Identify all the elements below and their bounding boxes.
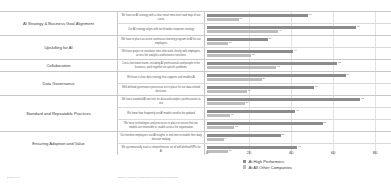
statement-text: Our frontline employees use AI insights … [118,132,205,143]
bar-other-companies [207,54,251,57]
bar-value-label: 29 [269,38,272,41]
bar-cell: 6233 [205,60,391,71]
bar-cell: 4211 [205,108,391,119]
axis-tick-label: 40 [289,150,294,155]
bar-high-performers [207,26,356,29]
statement-text: We have a clear data strategy that suppo… [118,72,205,83]
statement-row: Our AI strategy aligns with our broader … [118,23,391,35]
legend-item[interactable]: At All Other Companies [243,165,292,170]
bar-value-label: 66 [346,74,349,77]
statement-text: We have project or translator roles who … [118,48,205,59]
bar-value-label: 11 [231,114,234,117]
bar-other-companies [207,18,239,21]
bar-wrap-other: 8 [207,138,391,141]
bar-wrap-high: 42 [207,110,391,113]
bar-wrap-other: 26 [207,78,391,81]
statement-row: We have a clear data strategy that suppo… [118,72,391,83]
statement-text: We have in place an active continuous le… [118,36,205,47]
bar-wrap-high: 51 [207,86,391,89]
statement-row: We have an AI strategy with a clear smar… [118,12,391,23]
category-group: Upskilling for AIWe have in place an act… [0,35,391,59]
bar-value-label: 13 [235,126,238,129]
legend-swatch-icon [243,165,246,168]
bar-high-performers [207,50,293,53]
bar-high-performers [207,62,337,65]
axis-tick-label: 0 [206,150,208,155]
bar-wrap-other: 19 [207,90,391,93]
category-group: AI Strategy & Business Goal AlignmentWe … [0,11,391,35]
axis-tick-label: 20 [247,150,252,155]
bar-wrap-high: 73 [207,98,391,101]
bar-other-companies [207,102,245,105]
bar-value-label: 55 [323,122,326,125]
bar-cell: 4121 [205,48,391,59]
bar-wrap-other: 10 [207,42,391,45]
ai-practices-bar-chart: AI Strategy & Business Goal AlignmentWe … [0,0,391,188]
bar-wrap-other: 18 [207,102,391,105]
bar-value-label: 43 [298,146,301,149]
statement-row: We have technologies and processes in pl… [118,119,391,131]
axis-tick-label: 60 [331,150,336,155]
category-label: AI Strategy & Business Goal Alignment [0,12,118,35]
statement-row: We know how frequently our AI models nee… [118,107,391,119]
bar-wrap-high: 48 [207,14,391,17]
bar-value-label: 34 [279,30,282,33]
category-rows: Cross-functional teams, including AI pro… [118,60,391,71]
bar-high-performers [207,134,281,137]
bar-other-companies [207,30,278,33]
statement-row: Our frontline employees use AI insights … [118,132,391,143]
bar-wrap-high: 41 [207,50,391,53]
bar-other-companies [207,90,247,93]
bar-high-performers [207,74,346,77]
bar-cell: 6626 [205,72,391,83]
legend-label: At High Performers [248,159,284,164]
bar-value-label: 33 [277,66,280,69]
bar-cell: 4815 [205,12,391,23]
bar-high-performers [207,14,308,17]
bar-other-companies [207,114,230,117]
legend-label: At All Other Companies [248,165,292,170]
chart-legend: At High PerformersAt All Other Companies [0,159,391,170]
bar-wrap-other: 34 [207,30,391,33]
statement-text: We have technologies and processes in pl… [118,120,205,131]
bar-wrap-high: 55 [207,122,391,125]
legend-item[interactable]: At High Performers [243,159,284,164]
bar-value-label: 19 [248,90,251,93]
statement-text: Cross-functional teams, including AI pro… [118,60,205,71]
category-group: Standard and Repeatable PracticesWe have… [0,95,391,131]
statement-text: We have standard AI tool sets for data a… [118,96,205,107]
bar-other-companies [207,126,234,129]
bar-other-companies [207,66,276,69]
bar-high-performers [207,122,323,125]
bar-value-label: 8 [225,138,226,141]
statement-row: We have in place an active continuous le… [118,36,391,47]
bar-high-performers [207,98,360,101]
bar-other-companies [207,138,224,141]
statement-row: We have project or translator roles who … [118,47,391,59]
bar-wrap-other: 33 [207,66,391,69]
category-rows: We have an AI strategy with a clear smar… [118,12,391,35]
bar-other-companies [207,78,262,81]
bar-high-performers [207,146,297,149]
bar-wrap-high: 35 [207,134,391,137]
statement-row: We have standard AI tool sets for data a… [118,96,391,107]
bar-value-label: 48 [309,14,312,17]
category-rows: We have a clear data strategy that suppo… [118,72,391,95]
bar-cell: 7318 [205,96,391,107]
statement-text: We have an AI strategy with a clear smar… [118,12,205,23]
axis-tick-label: 80 [373,150,378,155]
bar-value-label: 21 [252,54,255,57]
bar-wrap-other: 15 [207,18,391,21]
bar-value-label: 41 [294,50,297,53]
category-label: Upskilling for AI [0,36,118,59]
footer-source-right: Source: McKinsey Global Survey on Artifi… [118,176,178,179]
bar-wrap-high: 66 [207,74,391,77]
bar-cell: 358 [205,132,391,143]
bar-value-label: 71 [357,26,360,29]
bar-wrap-other: 21 [207,54,391,57]
category-rows: We have standard AI tool sets for data a… [118,96,391,131]
statement-row: Cross-functional teams, including AI pro… [118,60,391,71]
bar-wrap-high: 29 [207,38,391,41]
bar-high-performers [207,86,314,89]
bar-value-label: 15 [239,18,242,21]
